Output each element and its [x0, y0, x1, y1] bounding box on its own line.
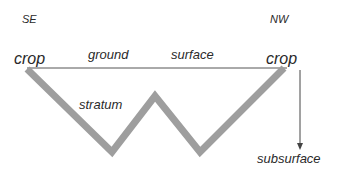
ground-label: ground — [88, 48, 128, 61]
stratum-label: stratum — [79, 98, 122, 111]
crop-right-label: crop — [266, 51, 297, 67]
arrow-head-icon — [297, 143, 303, 150]
crop-left-label: crop — [14, 51, 45, 67]
diagram-canvas — [0, 0, 351, 174]
subsurface-label: subsurface — [257, 152, 321, 165]
stratum-fold — [27, 68, 284, 152]
surface-label: surface — [171, 48, 214, 61]
nw-label: NW — [270, 14, 288, 25]
se-label: SE — [22, 14, 37, 25]
